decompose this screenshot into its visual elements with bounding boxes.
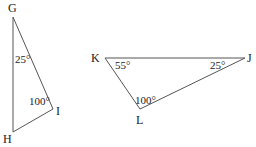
triangle-ghi-shape xyxy=(13,17,53,132)
diagram-canvas: G H I 25° 100° K J L 55° 25° 100° xyxy=(0,0,256,147)
angle-label-j: 25° xyxy=(210,59,225,71)
vertex-label-g: G xyxy=(8,1,17,15)
vertex-label-k: K xyxy=(91,51,100,65)
vertex-label-i: I xyxy=(56,104,60,118)
vertex-label-l: L xyxy=(136,113,143,127)
angle-label-l: 100° xyxy=(135,94,156,106)
angle-label-k: 55° xyxy=(115,59,130,71)
vertex-label-h: H xyxy=(3,132,12,146)
triangle-kjl: K J L 55° 25° 100° xyxy=(91,51,252,127)
angle-label-i: 100° xyxy=(29,95,50,107)
angle-label-g: 25° xyxy=(15,53,30,65)
triangle-ghi: G H I 25° 100° xyxy=(3,1,60,146)
vertex-label-j: J xyxy=(247,51,252,65)
